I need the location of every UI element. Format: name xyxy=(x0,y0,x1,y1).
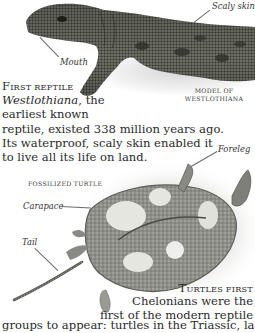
section-2-body-full: groups to appear: turtles in the Triassi… xyxy=(2,318,255,332)
heading-rest: urtles first xyxy=(186,284,253,294)
body-line-1: Westlothiana, the xyxy=(2,93,224,107)
body-line-3: groups to appear: turtles in the Triassi… xyxy=(2,318,255,332)
label-foreleg: Foreleg xyxy=(218,145,250,153)
body-line-1: Chelonians were the xyxy=(100,294,253,308)
label-carapace: Carapace xyxy=(23,202,63,210)
species-name: Westlothiana xyxy=(2,93,78,107)
label-tail: Tail xyxy=(22,238,37,246)
lizard-eye xyxy=(57,16,67,22)
label-mouth: Mouth xyxy=(60,58,88,66)
heading-initial: F xyxy=(2,79,10,93)
label-scaly-skin: Scaly skin xyxy=(212,2,255,10)
fossil-title: Fossilized turtle xyxy=(28,180,102,188)
heading-rest: irst reptile xyxy=(10,82,73,92)
section-heading-first-reptile: First reptile xyxy=(2,81,73,93)
body-line-2: earliest known xyxy=(2,107,224,121)
section-heading-turtles-first: Turtles first xyxy=(179,283,253,295)
body-line-3: reptile, existed 338 million years ago. xyxy=(2,122,224,136)
body-line-1-rest: , the xyxy=(78,93,104,107)
